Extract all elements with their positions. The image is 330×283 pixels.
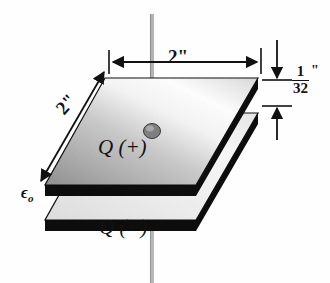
inch-mark: "	[311, 64, 319, 78]
negative-charge-label: Q (−)	[99, 217, 148, 238]
permittivity-symbol: ϵ	[21, 184, 28, 201]
capacitor-figure: 2" 2" Q (+) Q (−) ϵo 1 32 "	[0, 0, 330, 283]
fraction-one-thirtysecond: 1 32	[292, 64, 309, 97]
permittivity-subscript: o	[28, 192, 34, 204]
width-dimension-label: 2"	[168, 47, 188, 66]
thickness-dimension-label: 1 32 "	[292, 64, 319, 97]
positive-charge-label: Q (+)	[98, 137, 147, 158]
thickness-dimension	[262, 40, 292, 140]
fraction-numerator: 1	[295, 64, 307, 80]
capacitor-diagram-canvas	[0, 0, 330, 283]
permittivity-label: ϵo	[21, 185, 33, 204]
fraction-denominator: 32	[292, 80, 309, 97]
